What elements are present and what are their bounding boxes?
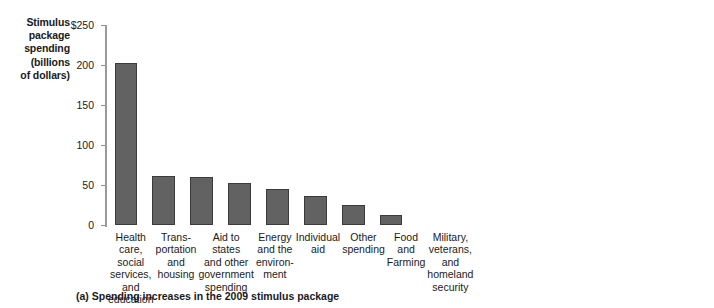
bar-slot <box>296 25 334 225</box>
y-axis-title-line: package <box>2 29 70 42</box>
y-axis-tick-label: 0 <box>88 219 94 231</box>
bar <box>115 63 138 225</box>
bar <box>342 205 365 225</box>
category-label-line: Aid to states <box>198 231 253 256</box>
y-axis-tick: 0 <box>101 225 105 226</box>
y-axis-title-line: (billions <box>2 56 70 69</box>
category-label-line: housing <box>156 268 197 280</box>
bar-slot <box>183 25 221 225</box>
bar-slot <box>221 25 259 225</box>
chart-panel-spending: Stimuluspackagespending(billionsof dolla… <box>0 0 430 308</box>
y-axis-tick-label: 50 <box>82 179 94 191</box>
bar-slot <box>259 25 297 225</box>
category-label-line: environ- <box>256 256 294 268</box>
category-label-line: and the <box>256 243 294 255</box>
category-label: FoodandFarming <box>386 231 427 305</box>
category-label-line: and <box>156 256 197 268</box>
bar-slot <box>107 25 145 225</box>
y-axis-tick: $250 <box>101 25 105 26</box>
y-axis-tick: 200 <box>101 65 105 66</box>
caption-spending: (a) Spending increases in the 2009 stimu… <box>76 290 339 302</box>
y-axis-tick: 50 <box>101 185 105 186</box>
category-label-line: portation <box>156 243 197 255</box>
bar-slot <box>372 25 410 225</box>
y-axis-title-line: Stimulus <box>2 16 70 29</box>
y-axis-tick-label: 200 <box>76 59 94 71</box>
category-label-line: Trans- <box>156 231 197 243</box>
y-axis-tick: 150 <box>101 105 105 106</box>
category-label-line: Energy <box>256 231 294 243</box>
category-label-line: social services, <box>108 256 154 281</box>
y-axis-tick-label: $250 <box>71 19 94 31</box>
bar <box>304 196 327 225</box>
y-axis-tick-label: 100 <box>76 139 94 151</box>
bar <box>190 177 213 225</box>
bar <box>380 215 403 225</box>
bar <box>152 176 175 225</box>
category-label-line: Farming <box>387 256 426 268</box>
y-axis-title-line: spending <box>2 42 70 55</box>
category-label: Otherspending <box>341 231 386 305</box>
category-label-line: Health care, <box>108 231 154 256</box>
bar <box>228 183 251 225</box>
category-label-line: Food <box>387 231 426 243</box>
category-label-line: spending <box>342 243 385 255</box>
y-axis-title-line: of dollars) <box>2 69 70 82</box>
bar-group-spending <box>107 25 410 225</box>
category-label-line: and other <box>198 256 253 268</box>
y-axis-tick-label: 150 <box>76 99 94 111</box>
plot-area-spending: 050100150200$250 <box>105 25 410 227</box>
category-label-line: ment <box>256 268 294 280</box>
bar <box>266 189 289 225</box>
bar-slot <box>334 25 372 225</box>
y-axis-tick: 100 <box>101 145 105 146</box>
category-label-line: Other <box>342 231 385 243</box>
category-label-line: Individual <box>296 231 340 243</box>
category-label-line: and <box>387 243 426 255</box>
category-label-line: government <box>198 268 253 280</box>
category-label-line: aid <box>296 243 340 255</box>
chart-panel-taxcuts: Tax Cuts(billionsof dollars) 05010015020… <box>430 0 714 308</box>
bar-slot <box>145 25 183 225</box>
y-axis-title-spending: Stimuluspackagespending(billionsof dolla… <box>2 16 70 82</box>
